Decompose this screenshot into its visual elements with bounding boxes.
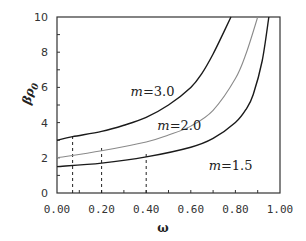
y-axis-title: βρ0 <box>19 80 41 107</box>
x-tick-label: 0.60 <box>178 203 205 216</box>
y-tick-label: 0 <box>41 187 48 200</box>
x-tick-label: 0.40 <box>133 203 160 216</box>
y-tick-label: 2 <box>41 152 48 165</box>
curve-label: m=2.0 <box>157 118 201 133</box>
chart: βρ0 0.000.200.400.600.801.00 0246810 m=3… <box>0 0 306 241</box>
curve-label: m=3.0 <box>131 84 175 99</box>
x-tick-label: 0.00 <box>44 203 71 216</box>
curve-m-3-0 <box>57 17 231 140</box>
curve-label: m=1.5 <box>209 158 253 173</box>
y-tick-label: 6 <box>41 81 48 94</box>
dashed-markers <box>73 134 147 193</box>
x-tick-label: 0.80 <box>222 203 249 216</box>
curve-labels: m=3.0m=2.0m=1.5 <box>131 84 253 173</box>
y-tick-label: 8 <box>41 46 48 59</box>
y-tick-label: 10 <box>34 11 48 24</box>
x-ticks: 0.000.200.400.600.801.00 <box>44 190 294 216</box>
y-tick-label: 4 <box>41 117 48 130</box>
x-axis-label: ω <box>157 221 168 235</box>
x-tick-label: 1.00 <box>267 203 294 216</box>
x-tick-label: 0.20 <box>88 203 115 216</box>
y-axis-label: βρ0 <box>19 80 41 107</box>
y-ticks: 0246810 <box>34 11 60 200</box>
